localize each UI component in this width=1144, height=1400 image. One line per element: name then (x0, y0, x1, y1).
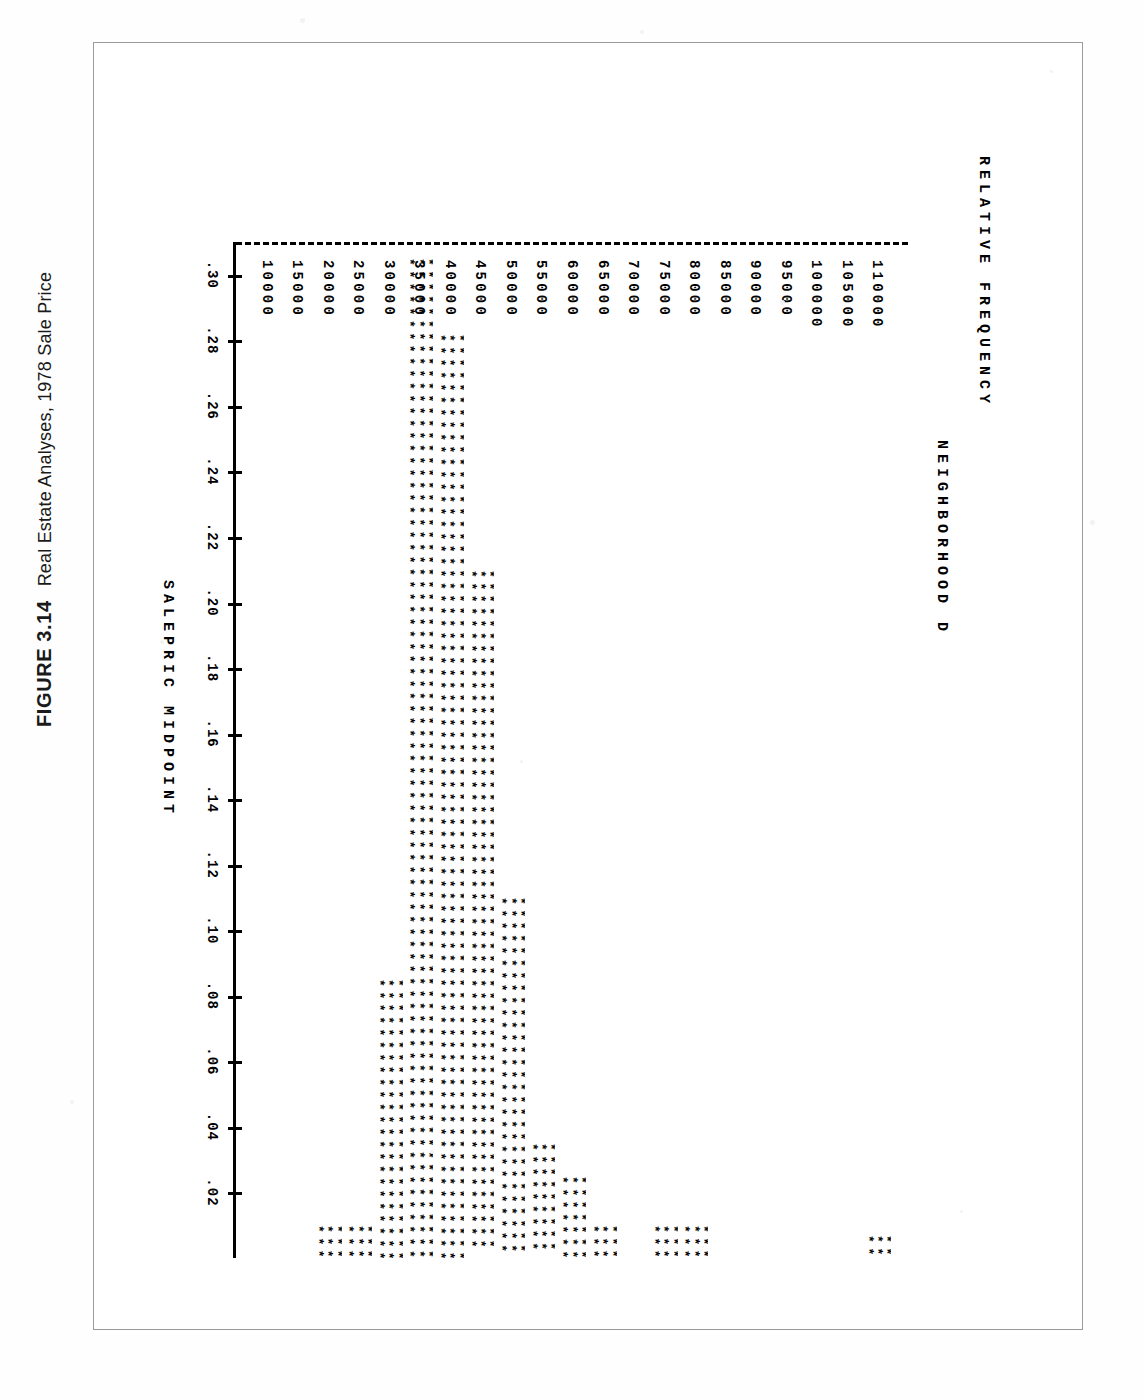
bar: ********* ********* ********* (527, 1143, 555, 1258)
histogram-printout: NEIGHBORHOOD D RELATIVE FREQUENCY SALEPR… (132, 110, 1012, 1290)
page-canvas: FIGURE 3.14Real Estate Analyses, 1978 Sa… (0, 0, 1144, 1400)
value-tick-label: .14 (204, 785, 220, 813)
bar: *** *** *** (680, 1225, 708, 1258)
value-tick (228, 340, 242, 343)
rotated-plot-wrapper: NEIGHBORHOOD D RELATIVE FREQUENCY SALEPR… (132, 110, 1012, 1290)
value-tick-label: .28 (204, 326, 220, 354)
category-label: 50000 (503, 260, 519, 318)
bar: *** *** *** (650, 1225, 678, 1258)
value-tick-label: .10 (204, 916, 220, 944)
value-tick (228, 275, 242, 278)
category-label: 70000 (625, 260, 641, 318)
value-tick (228, 537, 242, 540)
value-tick (228, 734, 242, 737)
category-label: 15000 (289, 260, 305, 318)
value-tick-label: .26 (204, 392, 220, 420)
bar: *** *** *** (344, 1225, 372, 1258)
bar: *********************** ****************… (375, 979, 403, 1258)
value-axis-title: RELATIVE FREQUENCY (975, 156, 992, 408)
category-label: 40000 (442, 260, 458, 318)
value-tick (228, 799, 242, 802)
value-tick (228, 865, 242, 868)
value-tick-label: .18 (204, 654, 220, 682)
category-label: 65000 (595, 260, 611, 318)
value-tick-label: .22 (204, 523, 220, 551)
value-tick-label: .04 (204, 1113, 220, 1141)
paper-speck (430, 1150, 434, 1154)
value-tick (228, 471, 242, 474)
category-label: 45000 (472, 260, 488, 318)
value-tick-label: .30 (204, 261, 220, 289)
bar: ****************************************… (466, 570, 494, 1258)
paper-speck (780, 300, 785, 305)
category-label: 10000 (259, 260, 275, 318)
value-tick (228, 603, 242, 606)
paper-speck (1090, 520, 1095, 525)
value-tick (228, 406, 242, 409)
paper-speck (640, 30, 644, 34)
category-label: 95000 (778, 260, 794, 318)
category-label: 105000 (839, 260, 855, 330)
bar: ***************************** **********… (497, 897, 525, 1258)
value-tick (228, 668, 242, 671)
category-label: 35000 (411, 260, 427, 318)
category-label: 30000 (381, 260, 397, 318)
category-label: 20000 (320, 260, 336, 318)
paper-speck (70, 1100, 74, 1104)
paper-speck (1050, 70, 1053, 73)
bar: ****************************************… (405, 258, 433, 1258)
value-tick-label: .20 (204, 588, 220, 616)
paper-speck (160, 640, 164, 644)
value-tick-label: .02 (204, 1178, 220, 1206)
value-tick-label: .24 (204, 457, 220, 485)
value-tick (228, 996, 242, 999)
value-tick-label: .16 (204, 720, 220, 748)
category-label: 25000 (350, 260, 366, 318)
category-label: 100000 (808, 260, 824, 330)
category-axis-title: SALEPRIC MIDPOINT (159, 580, 176, 818)
paper-speck (300, 18, 305, 23)
chart-title: NEIGHBORHOOD D (933, 440, 950, 636)
category-label: 55000 (533, 260, 549, 318)
category-label: 80000 (686, 260, 702, 318)
figure-number: FIGURE 3.14 (33, 600, 55, 727)
bar: *** *** *** (314, 1225, 342, 1258)
bar-plot-area: *** *** ****** *** *********************… (236, 242, 908, 1258)
category-label: 75000 (656, 260, 672, 318)
category-label: 110000 (869, 260, 885, 330)
category-label: 90000 (747, 260, 763, 318)
paper-speck (960, 1210, 963, 1213)
bar: ****************************************… (436, 334, 464, 1258)
category-label: 60000 (564, 260, 580, 318)
paper-speck (520, 760, 523, 763)
bar: ******* ******* ******* (558, 1176, 586, 1258)
value-tick (228, 1127, 242, 1130)
figure-title: Real Estate Analyses, 1978 Sale Price (35, 272, 55, 587)
value-tick (228, 1192, 242, 1195)
value-tick-label: .08 (204, 982, 220, 1010)
bar: ** ** ** (863, 1235, 891, 1258)
value-tick (228, 1061, 242, 1064)
value-tick-label: .12 (204, 851, 220, 879)
bar: *** *** *** (589, 1225, 617, 1258)
category-label: 85000 (717, 260, 733, 318)
value-tick (228, 930, 242, 933)
value-tick-label: .06 (204, 1047, 220, 1075)
figure-caption: FIGURE 3.14Real Estate Analyses, 1978 Sa… (33, 27, 67, 727)
